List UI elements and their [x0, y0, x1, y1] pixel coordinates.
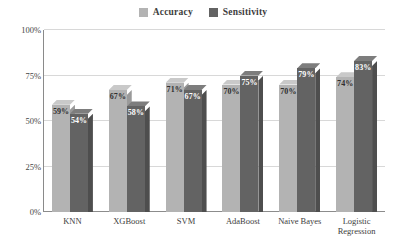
x-label-knn: KNN: [44, 216, 101, 226]
bar-value-label: 70%: [280, 87, 296, 96]
bar-front-face: [240, 76, 258, 213]
bar-value-label: 58%: [128, 108, 144, 117]
bar-sensitivity-knn[interactable]: 54%: [70, 109, 88, 212]
bar-value-label: 54%: [71, 116, 87, 125]
x-axis-category-labels: KNNXGBoostSVMAdaBoostNaive BayesLogistic…: [44, 216, 385, 246]
bar-value-label: 70%: [223, 87, 239, 96]
bar-front-face: [109, 90, 127, 212]
legend-label: Accuracy: [153, 7, 193, 17]
bar-group: 71%67%: [158, 30, 215, 212]
bar-value-label: 67%: [110, 92, 126, 101]
bar-value-label: 75%: [241, 78, 257, 87]
y-tick-label: 75%: [3, 71, 41, 81]
bar-front-face: [279, 85, 297, 212]
bar-value-label: 79%: [298, 70, 314, 79]
bar-top-face: [70, 109, 93, 114]
bar-front-face: [354, 61, 372, 212]
bar-front-face: [127, 106, 145, 212]
y-tick-label: 0%: [3, 207, 41, 217]
x-label-xgboost: XGBoost: [101, 216, 158, 226]
bar-chart: AccuracySensitivity 0%25%50%75%100% 59%5…: [0, 0, 406, 248]
bar-front-face: [222, 85, 240, 212]
bar-sensitivity-xgboost[interactable]: 58%: [127, 101, 145, 212]
bar-sensitivity-svm[interactable]: 67%: [184, 85, 202, 212]
bar-value-label: 74%: [337, 79, 353, 88]
legend-swatch-icon: [209, 8, 218, 17]
y-tick-label: 50%: [3, 116, 41, 126]
bar-sensitivity-naive-bayes[interactable]: 79%: [297, 63, 315, 212]
chart-legend: AccuracySensitivity: [0, 7, 406, 17]
bar-front-face: [70, 114, 88, 212]
y-tick-label: 25%: [3, 162, 41, 172]
legend-entry-sensitivity[interactable]: Sensitivity: [209, 7, 267, 17]
bar-side-face: [202, 90, 207, 212]
x-label-svm: SVM: [158, 216, 215, 226]
bar-accuracy-svm[interactable]: 71%: [166, 78, 184, 212]
legend-entry-accuracy[interactable]: Accuracy: [139, 7, 193, 17]
bar-accuracy-naive-bayes[interactable]: 70%: [279, 80, 297, 212]
bar-value-label: 71%: [167, 85, 183, 94]
bar-top-face: [240, 71, 263, 76]
bar-front-face: [184, 90, 202, 212]
bar-front-face: [52, 105, 70, 212]
bar-top-face: [297, 63, 320, 68]
bar-group: 70%75%: [215, 30, 272, 212]
x-label-naive-bayes: Naive Bayes: [271, 216, 328, 226]
bar-value-label: 67%: [185, 92, 201, 101]
bar-accuracy-adaboost[interactable]: 70%: [222, 80, 240, 212]
bar-sensitivity-adaboost[interactable]: 75%: [240, 71, 258, 213]
bar-group: 74%83%: [328, 30, 385, 212]
bar-side-face: [145, 106, 150, 212]
x-label-adaboost: AdaBoost: [215, 216, 272, 226]
bar-front-face: [166, 83, 184, 212]
bar-side-face: [315, 68, 320, 212]
bar-top-face: [127, 101, 150, 106]
bar-front-face: [336, 77, 354, 212]
bar-group: 59%54%: [44, 30, 101, 212]
bar-top-face: [109, 85, 132, 90]
bar-value-label: 83%: [355, 63, 371, 72]
bar-side-face: [258, 76, 263, 213]
bar-top-face: [184, 85, 207, 90]
bar-accuracy-logistic-regression[interactable]: 74%: [336, 72, 354, 212]
bar-group: 67%58%: [101, 30, 158, 212]
bar-side-face: [372, 61, 377, 212]
bar-top-face: [52, 100, 75, 105]
legend-label: Sensitivity: [223, 7, 267, 17]
bars-layer: 59%54%67%58%71%67%70%75%70%79%74%83%: [44, 30, 385, 212]
y-tick-label: 100%: [3, 25, 41, 35]
bar-sensitivity-logistic-regression[interactable]: 83%: [354, 56, 372, 212]
legend-swatch-icon: [139, 8, 148, 17]
bar-front-face: [297, 68, 315, 212]
bar-accuracy-xgboost[interactable]: 67%: [109, 85, 127, 212]
bar-value-label: 59%: [53, 107, 69, 116]
x-label-logistic-regression: Logistic Regression: [328, 216, 385, 236]
bar-side-face: [88, 114, 93, 212]
bar-group: 70%79%: [271, 30, 328, 212]
bar-top-face: [354, 56, 377, 61]
y-axis-tick-labels: 0%25%50%75%100%: [0, 30, 41, 212]
bar-accuracy-knn[interactable]: 59%: [52, 100, 70, 212]
bar-top-face: [166, 78, 189, 83]
